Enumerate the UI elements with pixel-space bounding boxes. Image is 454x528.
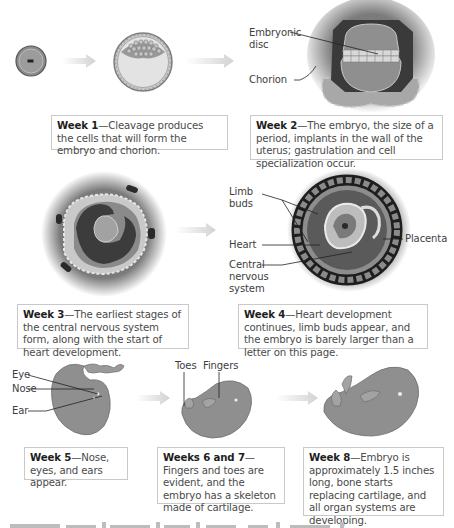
- label-line: Limb: [229, 186, 253, 198]
- caption-heading: Week 8: [309, 452, 350, 463]
- label-eye: Eye: [12, 369, 30, 381]
- label-central-nervous-system: Central nervous system: [229, 259, 269, 295]
- zygote-illustration: [14, 44, 48, 78]
- label-chorion: Chorion: [249, 74, 287, 86]
- leader-lines: [383, 236, 403, 242]
- label-ear: Ear: [12, 405, 28, 417]
- caption-week-6-7: Weeks 6 and 7—Fingers and toes are evide…: [157, 447, 285, 504]
- label-limb-buds: Limb buds: [229, 186, 253, 210]
- arrow-icon: [186, 54, 234, 68]
- caption-week-3: Week 3—The earliest stages of the centra…: [17, 304, 189, 349]
- leader-lines: [260, 186, 390, 286]
- arrow-icon: [62, 54, 96, 68]
- arrow-icon: [136, 391, 170, 405]
- leader-lines: [26, 370, 116, 414]
- label-line: nervous: [229, 271, 269, 283]
- caption-text: —Embryo is approximately 1.5 inches long…: [309, 452, 434, 526]
- caption-week-2: Week 2—The embryo, the size of a period,…: [250, 115, 443, 160]
- label-heart: Heart: [229, 239, 256, 251]
- label-nose: Nose: [12, 383, 37, 395]
- caption-week-4: Week 4—Heart development continues, limb…: [238, 304, 428, 349]
- label-line: disc: [249, 39, 301, 51]
- week3-embryo-illustration: [40, 170, 168, 298]
- label-embryonic-disc: Embryonic disc: [249, 27, 301, 51]
- caption-week-8: Week 8—Embryo is approximately 1.5 inche…: [303, 447, 444, 516]
- caption-week-1: Week 1—Cleavage produces the cells that …: [51, 115, 228, 150]
- cut-off-figure-caption: [0, 517, 454, 528]
- caption-heading: Week 4: [244, 309, 285, 320]
- caption-heading: Week 3: [23, 309, 64, 320]
- week8-embryo-illustration: [320, 362, 424, 440]
- caption-heading: Weeks 6 and 7: [163, 452, 245, 463]
- arrow-icon: [176, 223, 216, 237]
- blastocyst-illustration: [111, 30, 175, 94]
- label-toes: Toes: [175, 360, 197, 372]
- arrow-icon: [276, 391, 318, 405]
- label-line: Central: [229, 259, 269, 271]
- label-fingers: Fingers: [203, 360, 238, 372]
- label-line: Embryonic: [249, 27, 301, 39]
- caption-week-5: Week 5—Nose, eyes, and ears appear.: [24, 447, 128, 480]
- caption-heading: Week 1: [57, 120, 98, 131]
- leader-lines: [180, 372, 240, 412]
- caption-heading: Week 5: [30, 452, 71, 463]
- caption-heading: Week 2: [256, 120, 297, 131]
- label-placenta: Placenta: [405, 233, 447, 245]
- label-line: system: [229, 283, 269, 295]
- label-line: buds: [229, 198, 253, 210]
